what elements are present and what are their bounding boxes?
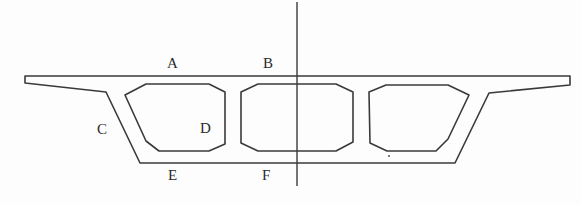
label-a: A	[167, 56, 178, 71]
right-cell	[369, 85, 469, 151]
left-cell	[125, 84, 225, 151]
label-c: C	[97, 122, 107, 137]
label-e: E	[168, 168, 177, 183]
label-f: F	[262, 168, 270, 183]
diagram-drawing	[0, 0, 581, 205]
label-d: D	[200, 121, 211, 136]
label-b: B	[263, 56, 273, 71]
speck-mark	[388, 155, 390, 157]
girder-section-diagram: A B C D E F	[0, 0, 581, 205]
